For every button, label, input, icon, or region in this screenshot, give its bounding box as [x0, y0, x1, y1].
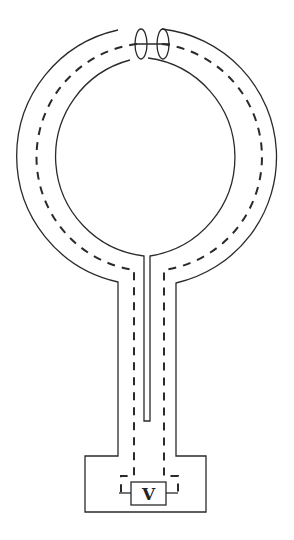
voltmeter: V: [131, 482, 166, 505]
voltmeter-label: V: [141, 484, 156, 504]
coaxial-loop-diagram: V: [0, 0, 294, 540]
inner-conductor: [36, 44, 261, 493]
outer-shield: [17, 29, 277, 512]
